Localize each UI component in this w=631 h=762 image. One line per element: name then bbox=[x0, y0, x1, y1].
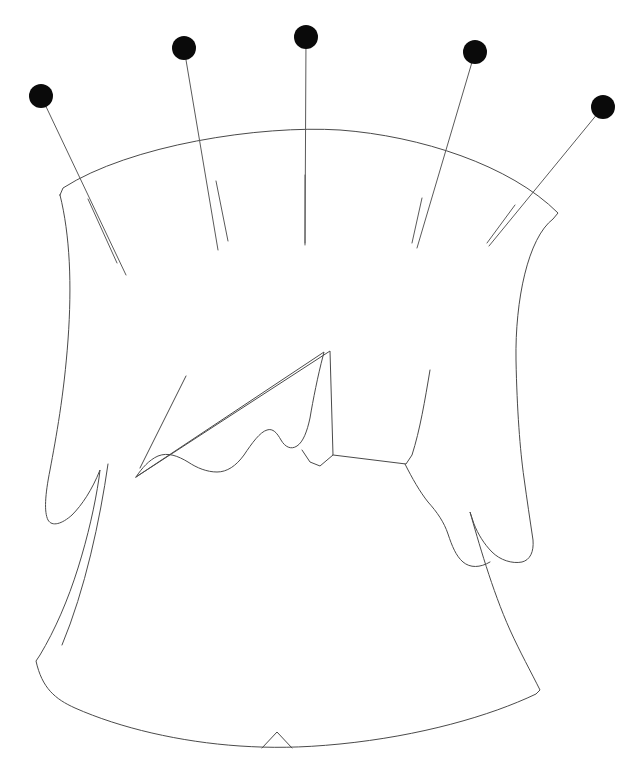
diagram-canvas bbox=[0, 0, 631, 762]
pin-3-head-icon[interactable] bbox=[294, 25, 318, 49]
pattern-diagram-svg bbox=[0, 0, 631, 762]
pin-1-head-icon[interactable] bbox=[29, 84, 53, 108]
pin-4-head-icon[interactable] bbox=[463, 40, 487, 64]
pin-2-head-icon[interactable] bbox=[172, 36, 196, 60]
pin-5-head-icon[interactable] bbox=[591, 95, 615, 119]
background-rect bbox=[0, 0, 631, 762]
